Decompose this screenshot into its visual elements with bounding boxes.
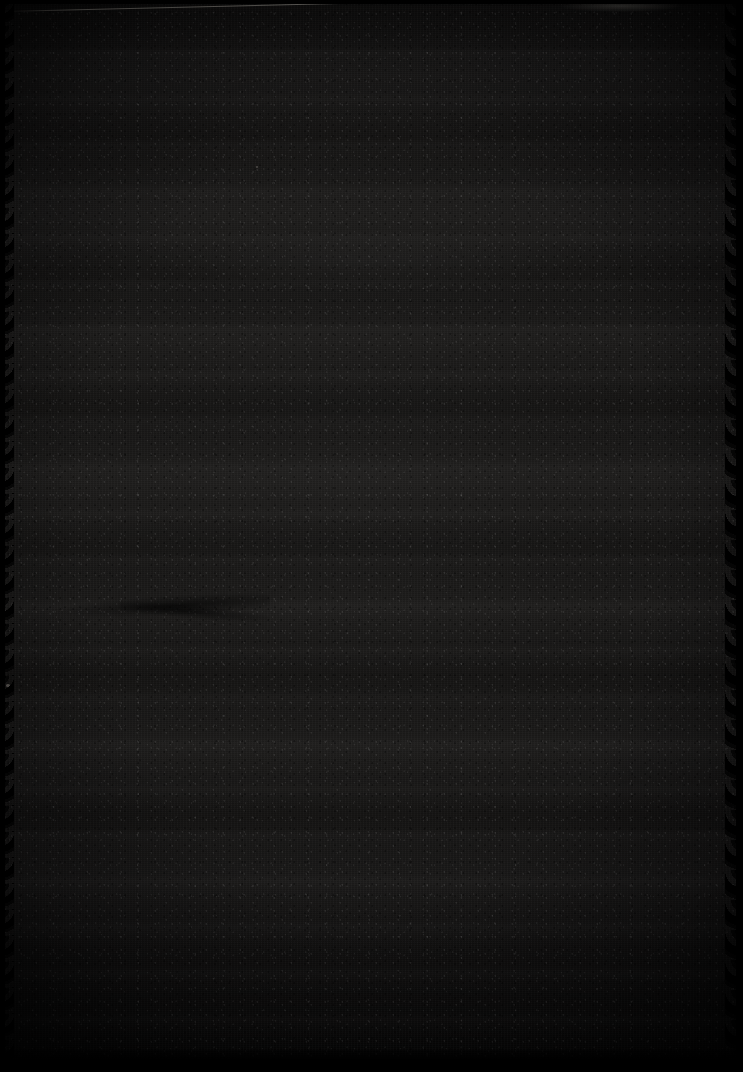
- upper-speck: [256, 166, 258, 168]
- streaking-layer: [0, 0, 743, 1072]
- scanline-weave-layer: [0, 0, 743, 1072]
- image-canvas: Extremely dark, underexposed photographi…: [0, 0, 743, 1072]
- upper-light-patch: [150, 230, 580, 290]
- horizontal-banding-layer: [0, 0, 743, 1072]
- vignette-layer: [0, 0, 743, 1072]
- top-border: [0, 0, 743, 4]
- base-tone-layer: [0, 0, 743, 1072]
- film-grain-layer: [0, 0, 743, 1072]
- left-border: [0, 0, 5, 1072]
- right-border: [736, 0, 743, 1072]
- bottom-border: [0, 1050, 743, 1072]
